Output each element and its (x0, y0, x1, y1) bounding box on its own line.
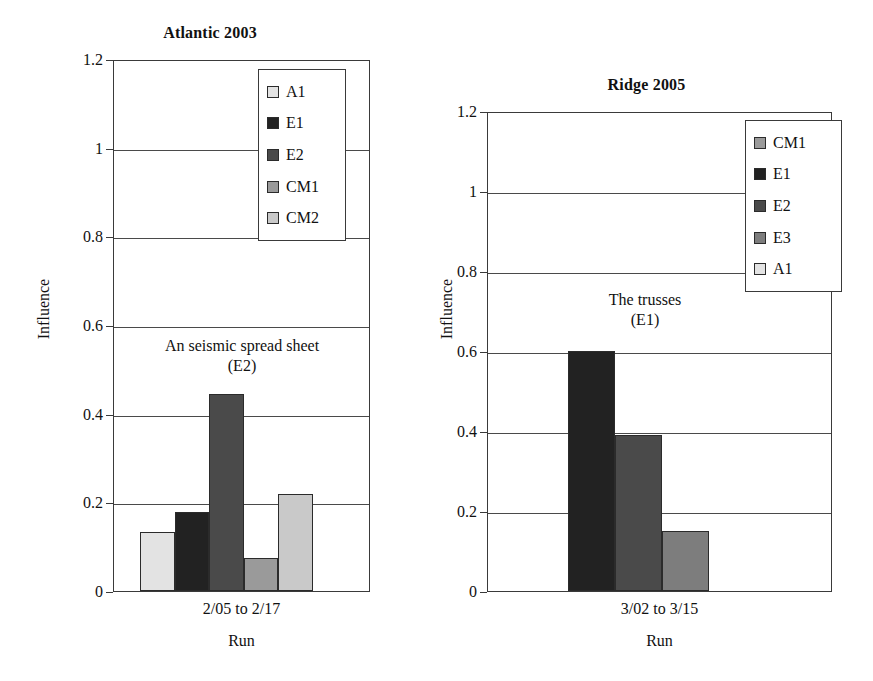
legend: A1E1E2CM1CM2 (258, 69, 346, 241)
legend-label: E1 (286, 115, 304, 131)
bar-cm1 (244, 558, 279, 591)
legend-item: E1 (267, 112, 336, 134)
legend-item: CM1 (754, 132, 832, 154)
y-tick-label: 1 (51, 140, 103, 158)
y-tick-label: 0.8 (51, 228, 103, 246)
legend-item: E2 (267, 144, 336, 166)
legend-item: E1 (754, 163, 832, 185)
y-tick-mark (480, 272, 487, 273)
y-tick-mark (106, 326, 113, 327)
bar-e2 (209, 394, 244, 591)
y-tick-mark (106, 237, 113, 238)
legend-swatch-icon (754, 232, 766, 244)
y-tick-label: 0.6 (51, 317, 103, 335)
gridline (488, 353, 831, 354)
y-tick-label: 1.2 (425, 103, 477, 121)
y-tick-label: 0.2 (51, 494, 103, 512)
y-tick-mark (480, 512, 487, 513)
legend-swatch-icon (267, 117, 279, 129)
legend-item: E3 (754, 227, 832, 249)
y-tick-mark (480, 352, 487, 353)
legend-swatch-icon (267, 149, 279, 161)
y-tick-mark (106, 149, 113, 150)
annotation-line-2: (E2) (120, 356, 364, 376)
x-category-label: 2/05 to 2/17 (113, 600, 370, 618)
x-axis-title: Run (113, 632, 370, 650)
gridline (114, 327, 369, 328)
x-category-label: 3/02 to 3/15 (487, 600, 832, 618)
y-tick-mark (106, 592, 113, 593)
legend-item: CM1 (267, 176, 336, 198)
y-axis-title: Influence (35, 249, 53, 369)
legend-label: E2 (286, 147, 304, 163)
annotation-text: The trusses (E1) (475, 290, 815, 330)
legend-swatch-icon (754, 168, 766, 180)
legend-swatch-icon (754, 200, 766, 212)
legend-label: CM2 (286, 210, 319, 226)
bar-e3 (662, 531, 709, 591)
y-tick-mark (480, 192, 487, 193)
y-tick-label: 0.8 (425, 263, 477, 281)
y-tick-mark (106, 60, 113, 61)
y-tick-label: 0.2 (425, 503, 477, 521)
legend: CM1E1E2E3A1 (745, 120, 842, 292)
chart-ridge-2005: Ridge 2005 Influence The trusses (E1) CM… (420, 0, 873, 681)
legend-label: E1 (773, 166, 791, 182)
legend-label: CM1 (286, 179, 319, 195)
bar-e2 (615, 435, 662, 591)
legend-label: CM1 (773, 135, 806, 151)
y-tick-label: 0.6 (425, 343, 477, 361)
annotation-text: An seismic spread sheet (E2) (120, 336, 364, 376)
y-tick-label: 0.4 (51, 406, 103, 424)
y-tick-label: 1 (425, 183, 477, 201)
chart-title: Atlantic 2003 (0, 24, 420, 42)
legend-swatch-icon (754, 137, 766, 149)
gridline (488, 433, 831, 434)
legend-item: E2 (754, 195, 832, 217)
legend-label: E2 (773, 198, 791, 214)
y-tick-label: 0.4 (425, 423, 477, 441)
legend-swatch-icon (267, 212, 279, 224)
bar-e1 (175, 512, 210, 591)
legend-label: A1 (773, 261, 793, 277)
legend-swatch-icon (754, 263, 766, 275)
legend-item: A1 (754, 258, 832, 280)
y-tick-mark (480, 112, 487, 113)
annotation-line-1: An seismic spread sheet (120, 336, 364, 356)
chart-title: Ridge 2005 (420, 76, 873, 94)
y-tick-label: 1.2 (51, 51, 103, 69)
chart-atlantic-2003: Atlantic 2003 Influence An seismic sprea… (0, 0, 420, 681)
y-tick-mark (480, 432, 487, 433)
legend-item: CM2 (267, 207, 336, 229)
legend-swatch-icon (267, 181, 279, 193)
bar-a1 (140, 532, 175, 591)
legend-swatch-icon (267, 86, 279, 98)
y-tick-mark (106, 415, 113, 416)
bar-cm2 (278, 494, 313, 591)
legend-label: A1 (286, 84, 306, 100)
annotation-line-2: (E1) (475, 310, 815, 330)
y-tick-label: 0 (51, 583, 103, 601)
x-axis-title: Run (487, 632, 832, 650)
legend-item: A1 (267, 81, 336, 103)
y-tick-mark (480, 592, 487, 593)
y-tick-label: 0 (425, 583, 477, 601)
annotation-line-1: The trusses (475, 290, 815, 310)
legend-label: E3 (773, 230, 791, 246)
y-tick-mark (106, 503, 113, 504)
bar-e1 (568, 351, 615, 591)
